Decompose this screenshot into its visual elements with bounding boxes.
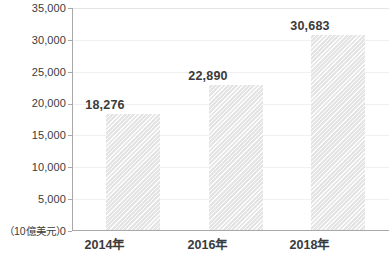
plot-area xyxy=(72,8,389,231)
bar-value-label-2016: 22,890 xyxy=(178,70,238,83)
bar-value-label-2014: 18,276 xyxy=(75,99,135,112)
bar-2014 xyxy=(106,114,160,230)
y-axis-label-15000: 15,000 xyxy=(32,130,66,141)
y-axis-label-30000: 30,000 xyxy=(32,35,66,46)
y-axis-label-35000: 35,000 xyxy=(32,3,66,14)
x-axis-label-2014: 2014年 xyxy=(75,238,135,252)
y-axis-tick-0 xyxy=(68,231,72,232)
y-axis-label-20000: 20,000 xyxy=(32,98,66,109)
bar-2018 xyxy=(311,35,365,230)
y-axis-unit-caption: （10億美元） xyxy=(4,226,66,237)
y-axis-label-10000: 10,000 xyxy=(32,162,66,173)
bar-value-label-2018: 30,683 xyxy=(280,20,340,33)
bar-2016 xyxy=(209,85,263,230)
x-axis-label-2016: 2016年 xyxy=(178,238,238,252)
y-axis-label-5000: 5,000 xyxy=(38,194,66,205)
y-axis-label-25000: 25,000 xyxy=(32,67,66,78)
x-axis-label-2018: 2018年 xyxy=(280,238,340,252)
gridline-35000 xyxy=(73,8,389,9)
bar-chart: 35,000 30,000 25,000 20,000 15,000 10,00… xyxy=(0,0,392,256)
